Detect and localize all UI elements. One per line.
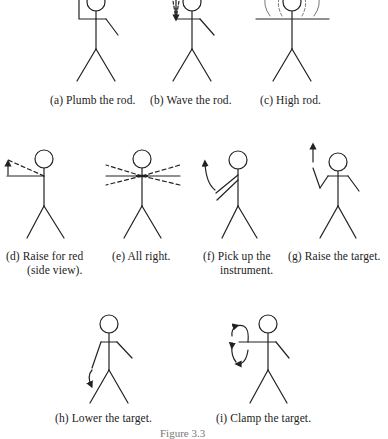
caption-c: (c) High rod. bbox=[260, 94, 321, 107]
figure-f-pick-up-instrument bbox=[205, 151, 257, 238]
figure-title: Figure 3.3 bbox=[160, 427, 205, 439]
caption-g: (g) Raise the target. bbox=[288, 250, 381, 263]
caption-d-line2: (side view). bbox=[27, 264, 83, 277]
caption-i: (i) Clamp the target. bbox=[216, 412, 311, 425]
caption-f-line1: (f) Pick up the bbox=[203, 250, 271, 263]
caption-d-line1: (d) Raise for red bbox=[6, 250, 83, 263]
figure-d-raise-for-red bbox=[7, 150, 64, 238]
figure-h-lower-the-target bbox=[89, 315, 132, 403]
figure-b-wave-the-rod bbox=[172, 0, 214, 81]
figure-g-raise-the-target bbox=[313, 146, 359, 238]
caption-a: (a) Plumb the rod. bbox=[50, 94, 135, 107]
figure-i-clamp-the-target bbox=[232, 315, 289, 403]
figure-c-high-rod bbox=[256, 0, 329, 81]
figure-a-plumb-the-rod bbox=[77, 0, 118, 81]
caption-h: (h) Lower the target. bbox=[55, 412, 152, 425]
caption-f-line2: instrument. bbox=[220, 264, 273, 277]
caption-e: (e) All right. bbox=[112, 250, 171, 263]
figure-e-all-right bbox=[106, 150, 180, 238]
caption-b: (b) Wave the rod. bbox=[150, 94, 232, 107]
